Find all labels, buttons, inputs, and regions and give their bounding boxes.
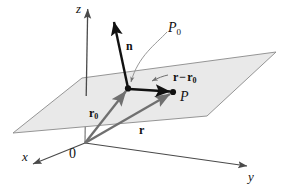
point-p0-letter: P <box>168 20 177 35</box>
point-p-dot <box>170 89 176 95</box>
axis-label-z: z <box>76 2 81 15</box>
origin-label: 0 <box>69 147 76 161</box>
x-axis <box>33 143 85 164</box>
vector-r-label: r <box>139 124 144 136</box>
point-p0-dot <box>125 85 131 91</box>
axis-label-x: x <box>22 150 28 163</box>
vector-diff-minus-sign: − <box>178 70 187 84</box>
vector-plane-diagram: z x y 0 n P0 P r0 r r−r0 <box>0 0 291 196</box>
point-p0-label: P0 <box>168 21 181 35</box>
vector-r-minus-r0-label: r−r0 <box>173 71 197 83</box>
axis-label-y: y <box>248 170 254 183</box>
point-p-label: P <box>180 90 189 104</box>
vector-r0-label: r0 <box>89 107 98 119</box>
vector-r0-subscript: 0 <box>94 112 98 121</box>
vector-diff-second-subscript: 0 <box>193 76 197 85</box>
vector-n-label: n <box>126 40 133 52</box>
diagram-canvas <box>0 0 291 196</box>
y-axis <box>85 143 247 166</box>
plane-surface <box>13 52 276 133</box>
point-p0-subscript: 0 <box>177 27 182 37</box>
vector-diff-second-letter: r <box>187 70 192 84</box>
